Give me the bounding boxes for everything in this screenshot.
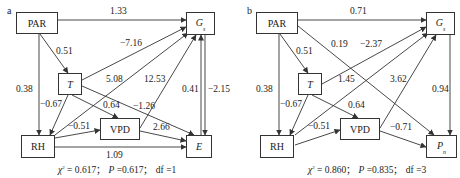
node-label: Gs: [196, 17, 206, 30]
coef-gs-e: −2.15: [208, 84, 230, 94]
node-label: Pn: [437, 140, 446, 153]
coef-vpd-gs: 12.53: [144, 74, 165, 84]
coef-vpd-gs: 3.62: [390, 74, 407, 84]
node-label: T: [67, 79, 73, 90]
panel-label: b: [247, 5, 252, 16]
coef-par-gs: 0.71: [350, 6, 367, 16]
node-gs: Gs: [186, 12, 215, 35]
coef-t-vpd: 0.64: [103, 100, 120, 110]
coef-par-pn: 0.19: [331, 39, 348, 49]
coef-t-gs: −7.16: [120, 38, 142, 48]
coef-rh-e: 1.09: [106, 150, 123, 160]
model-fit-stats: χ2 = 0.617； P =0.617； df =1: [58, 162, 176, 176]
node-t: T: [298, 73, 322, 95]
node-rh: RH: [21, 135, 55, 158]
node-label: RH: [31, 141, 45, 152]
coef-par-rh: 0.38: [256, 84, 273, 94]
node-t: T: [58, 73, 82, 95]
coef-rh-gs: 1.45: [338, 74, 355, 84]
coef-rh-gs: 5.08: [106, 74, 123, 84]
node-e: E: [186, 135, 212, 158]
panel-b: b PAR Gs T VPD RH Pn 0.71 0.51 0.38 0.19…: [240, 0, 460, 178]
model-fit-stats: χ2 = 0.860； P =0.835； df =3: [308, 162, 426, 176]
node-vpd: VPD: [100, 118, 140, 140]
node-label: Gs: [436, 17, 446, 30]
node-rh: RH: [260, 135, 294, 158]
coef-gs-pn: 0.94: [432, 84, 449, 94]
panel-label: a: [7, 5, 11, 16]
node-par: PAR: [256, 12, 298, 34]
panel-a: a PAR Gs T VPD RH E 1.33 0.51 0.38 −7.16…: [0, 0, 230, 178]
coef-par-t: 0.51: [296, 46, 313, 56]
node-label: VPD: [110, 124, 130, 135]
coef-par-rh: 0.38: [16, 84, 33, 94]
node-label: E: [196, 141, 202, 152]
node-label: PAR: [268, 18, 287, 29]
coef-e-gs: 0.41: [182, 84, 199, 94]
coef-t-rh: −0.67: [40, 99, 62, 109]
node-pn: Pn: [426, 135, 457, 158]
node-par: PAR: [16, 12, 58, 34]
coef-rh-vpd: −0.51: [308, 121, 330, 131]
coef-t-e: −1.26: [133, 101, 155, 111]
coef-par-gs: 1.33: [110, 6, 127, 16]
coef-par-t: 0.51: [56, 46, 73, 56]
coef-rh-vpd: −0.51: [68, 121, 90, 131]
coef-t-vpd: 0.64: [348, 100, 365, 110]
node-label: T: [307, 79, 313, 90]
coef-vpd-e: 2.66: [153, 122, 170, 132]
node-label: RH: [270, 141, 284, 152]
coef-t-gs: −2.37: [360, 39, 382, 49]
node-gs: Gs: [426, 12, 455, 35]
node-label: VPD: [350, 124, 370, 135]
coef-vpd-pn: −0.71: [390, 122, 412, 132]
coef-t-rh: −0.67: [280, 99, 302, 109]
node-label: PAR: [28, 18, 47, 29]
node-vpd: VPD: [340, 118, 380, 140]
